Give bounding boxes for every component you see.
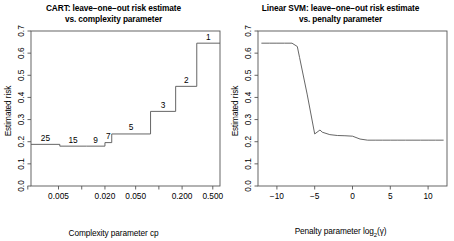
cart-step-curve [31, 43, 220, 146]
chart-plot-area-svm: 0.00.10.20.30.40.50.60.7−10−50510 [227, 0, 454, 241]
svm-y-tick-label: 0.6 [243, 47, 253, 59]
cart-plot-border [31, 31, 220, 186]
x-axis-label-cart: Complexity parameter cp [0, 228, 227, 238]
svm-y-tick-label: 0.3 [243, 113, 253, 125]
cart-step-label: 1 [206, 32, 211, 42]
cart-x-tick-label: 0.050 [125, 191, 146, 201]
cart-x-tick-label: 0.020 [95, 191, 116, 201]
y-axis-label-svm: Estimated risk [230, 61, 240, 161]
cart-y-tick-label: 0.5 [16, 69, 26, 81]
cart-y-tick-label: 0.4 [16, 91, 26, 103]
cart-step-label: 7 [106, 131, 111, 141]
chart-panel-svm: Linear SVM: leave−one−out risk estimate … [227, 0, 454, 241]
cart-x-tick-label: 0.500 [202, 191, 223, 201]
cart-y-tick-label: 0.2 [16, 136, 26, 148]
svm-plot-border [258, 31, 447, 186]
chart-panel-cart: CART: leave−one−out risk estimate vs. co… [0, 0, 227, 241]
cart-y-tick-label: 0.3 [16, 113, 26, 125]
cart-step-label: 25 [41, 133, 51, 143]
cart-step-label: 5 [129, 122, 134, 132]
cart-y-tick-label: 0.6 [16, 47, 26, 59]
svm-y-tick-label: 0.5 [243, 69, 253, 81]
svm-x-tick-label: 10 [423, 191, 433, 201]
figure-panel-pair: CART: leave−one−out risk estimate vs. co… [0, 0, 454, 241]
x-axis-label-svm-post: (γ) [377, 226, 386, 236]
svm-y-tick-label: 0.1 [243, 158, 253, 170]
x-axis-label-svm-pre: Penalty parameter log [295, 226, 374, 236]
x-axis-label-svm: Penalty parameter log2(γ) [227, 226, 454, 238]
cart-step-label: 2 [184, 75, 189, 85]
cart-y-tick-label: 0.1 [16, 158, 26, 170]
cart-y-tick-label: 0.0 [16, 180, 26, 192]
chart-plot-area-cart: 0.00.10.20.30.40.50.60.70.0050.0200.0500… [0, 0, 227, 241]
svm-x-tick-label: −5 [310, 191, 320, 201]
svm-y-tick-label: 0.0 [243, 180, 253, 192]
svm-y-tick-label: 0.2 [243, 136, 253, 148]
svm-x-tick-label: 5 [388, 191, 393, 201]
cart-x-tick-label: 0.005 [48, 191, 69, 201]
svm-x-tick-label: −10 [270, 191, 284, 201]
cart-step-label: 15 [68, 135, 78, 145]
svm-y-tick-label: 0.7 [243, 25, 253, 37]
cart-x-tick-label: 0.200 [172, 191, 193, 201]
cart-y-tick-label: 0.7 [16, 25, 26, 37]
svm-x-tick-label: 0 [350, 191, 355, 201]
cart-step-label: 3 [161, 100, 166, 110]
svm-y-tick-label: 0.4 [243, 91, 253, 103]
svm-risk-curve [262, 43, 443, 140]
y-axis-label-cart: Estimated risk [3, 61, 13, 161]
cart-step-label: 9 [93, 135, 98, 145]
